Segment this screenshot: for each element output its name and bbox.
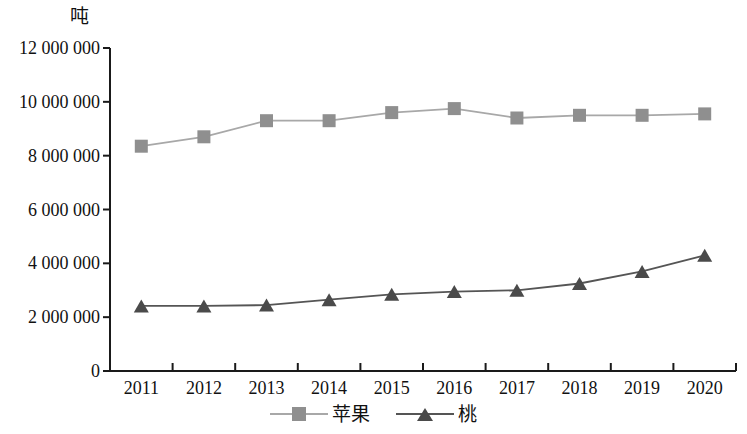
axes [103,48,736,371]
series-peach [134,249,712,313]
data-point-marker [448,102,461,115]
chart-container: 吨 02 000 0004 000 0006 000 0008 000 0001… [0,0,747,434]
data-point-marker [697,249,712,262]
legend-marker-square-icon [270,404,328,424]
legend-label: 苹果 [332,405,370,424]
legend-item-apple[interactable]: 苹果 [270,404,370,424]
legend-marker-triangle-icon [396,404,454,424]
data-point-marker [698,107,711,120]
data-point-marker [323,114,336,127]
data-point-marker [636,109,649,122]
series-line [141,255,704,306]
data-series-group [134,102,712,312]
chart-legend: 苹果桃 [0,404,747,424]
legend-item-peach[interactable]: 桃 [396,404,477,424]
data-point-marker [510,112,523,125]
data-point-marker [385,106,398,119]
data-point-marker [635,265,650,278]
series-apple [135,102,711,153]
plot-area [0,0,747,434]
data-point-marker [573,109,586,122]
series-line [141,109,704,147]
data-point-marker [135,140,148,153]
legend-label: 桃 [458,405,477,424]
data-point-marker [197,130,210,143]
data-point-marker [260,114,273,127]
